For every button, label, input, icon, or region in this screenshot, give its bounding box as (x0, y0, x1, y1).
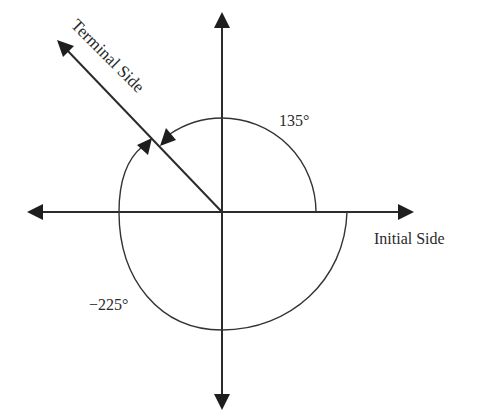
arc-neg-225-arrow-icon (137, 138, 152, 155)
arrow-right-icon (398, 204, 414, 220)
arc-135-arrow-icon (160, 128, 176, 146)
terminal-side (57, 40, 222, 212)
arrow-down-icon (214, 394, 230, 410)
arc-135 (160, 118, 316, 212)
diagram-svg: Terminal Side 135° Initial Side −225° (0, 0, 481, 420)
angle-diagram: Terminal Side 135° Initial Side −225° (0, 0, 481, 420)
angle-135-label: 135° (279, 112, 309, 129)
angle-neg-225-label: −225° (89, 296, 128, 313)
arrow-up-icon (214, 12, 230, 28)
arc-neg-225 (119, 138, 347, 330)
x-axis (27, 204, 414, 220)
arrow-left-icon (27, 204, 43, 220)
initial-side-label: Initial Side (374, 230, 445, 247)
terminal-side-label: Terminal Side (67, 15, 148, 96)
